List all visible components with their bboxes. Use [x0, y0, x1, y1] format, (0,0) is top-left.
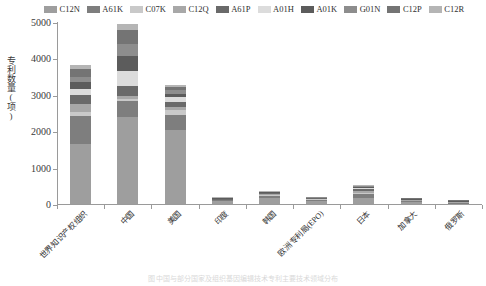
y-axis-tick — [53, 59, 57, 60]
y-axis-tick — [53, 169, 57, 170]
x-axis-tick — [482, 205, 483, 209]
legend-swatch-icon — [258, 6, 271, 13]
x-axis-tick — [57, 205, 58, 209]
legend-item-c12q[interactable]: C12Q — [173, 5, 209, 14]
bar-segment-c12n — [70, 144, 91, 204]
bar-3[interactable] — [212, 197, 233, 204]
chart-legend: C12NA61KC07KC12QA61PA01HA01KG01NC12PC12R — [44, 3, 482, 16]
x-axis-tick — [199, 205, 200, 209]
legend-label: C12R — [444, 5, 464, 14]
bar-segment-c12n — [117, 117, 138, 204]
legend-item-c12n[interactable]: C12N — [44, 5, 80, 14]
y-axis-tick-label: 0 — [46, 198, 51, 211]
legend-label: C12Q — [188, 5, 208, 14]
y-axis-tick-label: 1000 — [31, 162, 51, 175]
x-axis-tick — [104, 205, 105, 209]
bar-8[interactable] — [448, 200, 469, 204]
bar-segment-c12q — [70, 104, 91, 111]
legend-item-c07k[interactable]: C07K — [130, 5, 166, 14]
legend-label: A61P — [231, 5, 250, 14]
bar-segment-a61k — [165, 115, 186, 130]
bar-segment-c12n — [401, 202, 422, 204]
legend-swatch-icon — [216, 6, 229, 13]
bar-1[interactable] — [117, 24, 138, 204]
legend-swatch-icon — [429, 6, 442, 13]
y-axis-tick-label: 5000 — [31, 16, 51, 29]
bar-2[interactable] — [165, 85, 186, 204]
legend-swatch-icon — [130, 6, 143, 13]
x-axis-tick — [435, 205, 436, 209]
y-axis-tick-label: 2000 — [31, 125, 51, 138]
bar-7[interactable] — [401, 198, 422, 204]
bar-segment-a61k — [70, 116, 91, 145]
bar-segment-c12p — [70, 69, 91, 77]
legend-item-g01n[interactable]: G01N — [344, 5, 380, 14]
x-axis-tick — [388, 205, 389, 209]
bar-segment-c12n — [353, 198, 374, 204]
bar-segment-c12n — [306, 201, 327, 204]
y-axis-line — [57, 22, 58, 205]
bar-segment-a61p — [117, 86, 138, 97]
legend-item-a61k[interactable]: A61K — [87, 5, 123, 14]
bar-segment-c12n — [165, 130, 186, 204]
y-axis-title: 专利数量(项) — [4, 56, 16, 176]
x-axis-tick — [246, 205, 247, 209]
legend-swatch-icon — [301, 6, 314, 13]
y-axis-tick-label: 3000 — [31, 89, 51, 102]
bar-segment-a61k — [117, 101, 138, 117]
legend-label: A01H — [273, 5, 294, 14]
x-axis-line — [57, 204, 482, 205]
bar-segment-a61p — [70, 95, 91, 104]
y-axis-tick — [53, 96, 57, 97]
bar-segment-c12n — [259, 198, 280, 204]
bar-segment-c12p — [117, 30, 138, 43]
legend-label: A61K — [102, 5, 123, 14]
y-axis-tick-label: 4000 — [31, 52, 51, 65]
legend-label: C12N — [60, 5, 80, 14]
bar-segment-a01h — [117, 71, 138, 86]
bar-6[interactable] — [353, 185, 374, 204]
bar-segment-g01n — [117, 44, 138, 56]
legend-swatch-icon — [87, 6, 100, 13]
legend-item-a61p[interactable]: A61P — [216, 5, 251, 14]
legend-label: C12P — [403, 5, 422, 14]
legend-swatch-icon — [44, 6, 57, 13]
legend-item-c12r[interactable]: C12R — [429, 5, 464, 14]
x-axis-tick — [293, 205, 294, 209]
x-axis-tick — [340, 205, 341, 209]
bar-segment-a01k — [117, 56, 138, 71]
bar-0[interactable] — [70, 65, 91, 204]
legend-item-a01h[interactable]: A01H — [258, 5, 294, 14]
bar-segment-c12n — [212, 201, 233, 204]
legend-swatch-icon — [173, 6, 186, 13]
x-axis-tick — [151, 205, 152, 209]
stacked-bar-chart: C12NA61KC07KC12QA61PA01HA01KG01NC12PC12R… — [0, 0, 486, 286]
plot-area: 010002000300040005000 — [57, 22, 482, 205]
legend-label: G01N — [360, 5, 381, 14]
legend-swatch-icon — [387, 6, 400, 13]
bar-5[interactable] — [306, 197, 327, 204]
legend-label: C07K — [146, 5, 166, 14]
bar-4[interactable] — [259, 191, 280, 204]
y-axis-tick — [53, 132, 57, 133]
y-axis-tick — [53, 23, 57, 24]
legend-item-a01k[interactable]: A01K — [301, 5, 337, 14]
legend-item-c12p[interactable]: C12P — [387, 5, 421, 14]
legend-label: A01K — [316, 5, 337, 14]
legend-swatch-icon — [344, 6, 357, 13]
